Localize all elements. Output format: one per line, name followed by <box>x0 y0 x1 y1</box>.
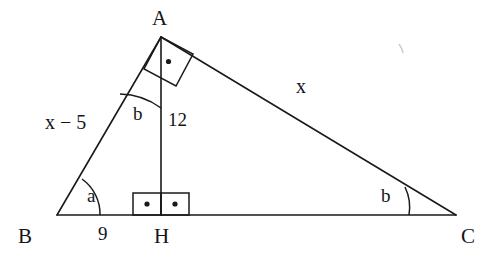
angle-label-b: a <box>87 186 95 205</box>
diagram-canvas <box>0 0 492 269</box>
right-angle-dot-h-left <box>144 201 149 206</box>
side-ac-line <box>161 37 456 215</box>
vertex-label-b: B <box>18 226 32 247</box>
altitude-length-label: 12 <box>168 110 187 129</box>
side-label-ac: x <box>296 76 306 96</box>
angle-label-a: b <box>133 104 143 123</box>
vertex-label-h: H <box>154 226 169 247</box>
scan-speck-artifact <box>399 44 403 53</box>
vertex-label-c: C <box>461 226 475 247</box>
segment-label-bh: 9 <box>98 224 108 243</box>
right-angle-dot-a <box>166 59 171 64</box>
angle-label-c: b <box>381 186 391 205</box>
side-label-ab: x − 5 <box>45 112 86 132</box>
geometry-figure: A B C H x − 5 x 12 9 a b b <box>0 0 492 269</box>
vertex-label-a: A <box>152 8 167 29</box>
right-angle-dot-h-right <box>172 201 177 206</box>
angle-arc-c <box>405 187 410 215</box>
